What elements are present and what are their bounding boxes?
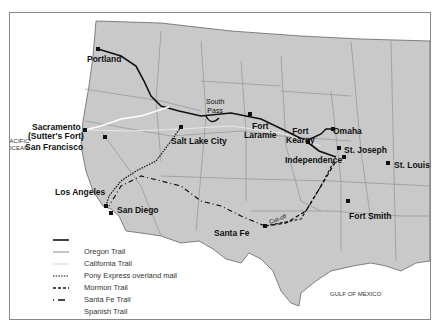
map-frame: PACIFIC OCEAN GULF OF MEXICO Portland Sa… (9, 12, 431, 320)
city-san-francisco: San Francisco (25, 143, 83, 152)
city-st-louis: St. Louis (394, 161, 430, 170)
city-fort-laramie: Fort Laramie (244, 122, 277, 140)
city-st-joseph: St. Joseph (344, 146, 387, 155)
legend-pony-express: Pony Express overland mail (62, 269, 177, 281)
legend: Oregon Trail California Trail Pony Expre… (62, 245, 177, 317)
city-fort-smith: Fort Smith (349, 212, 392, 221)
gulf-of-mexico-label: GULF OF MEXICO (330, 291, 381, 298)
city-sutters-fort: (Sutter's Fort) (28, 132, 84, 141)
city-portland: Portland (87, 55, 121, 64)
city-independence: Independence (285, 156, 342, 165)
city-san-diego: San Diego (117, 206, 159, 215)
legend-spanish-trail: Spanish Trail (62, 305, 177, 317)
city-fort-kearny: Fort Kearny (286, 127, 315, 145)
city-santa-fe: Santa Fe (214, 229, 249, 238)
legend-santa-fe-trail: Santa Fe Trail (62, 293, 177, 305)
city-salt-lake-city: Salt Lake City (171, 137, 227, 146)
legend-california-trail: California Trail (62, 257, 177, 269)
city-omaha: Omaha (333, 127, 362, 136)
south-pass-label: South Pass (206, 97, 224, 115)
legend-oregon-trail: Oregon Trail (62, 245, 177, 257)
city-los-angeles: Los Angeles (55, 188, 105, 197)
legend-mormon-trail: Mormon Trail (62, 281, 177, 293)
